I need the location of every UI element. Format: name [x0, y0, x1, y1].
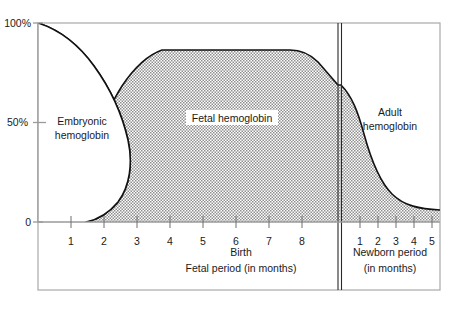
fetal-tick-label-5: 5 [200, 235, 206, 247]
fetal-period-caption: Fetal period (in months) [186, 262, 297, 274]
y-axis-label-50: 50% [7, 116, 28, 128]
embryonic-label-line2: hemoglobin [55, 129, 109, 141]
adult-label-line1: Adult [378, 106, 402, 118]
adult-label-line2: hemoglobin [363, 120, 417, 132]
fetal-tick-label-8: 8 [299, 235, 305, 247]
newborn-months-caption: (in months) [364, 262, 417, 274]
hemoglobin-switching-figure: 100% 50% 0 1 2 3 4 5 6 7 8 1 [0, 0, 457, 309]
embryonic-label-line1: Embryonic [57, 115, 107, 127]
fetal-tick-label-1: 1 [68, 235, 74, 247]
fetal-label: Fetal hemoglobin [192, 112, 273, 124]
fetal-tick-label-2: 2 [101, 235, 107, 247]
birth-caption: Birth [230, 246, 252, 258]
fetal-tick-label-7: 7 [266, 235, 272, 247]
fetal-tick-label-4: 4 [167, 235, 173, 247]
fetal-tick-label-3: 3 [134, 235, 140, 247]
y-axis-label-0: 0 [25, 216, 31, 228]
hemoglobin-chart: 100% 50% 0 1 2 3 4 5 6 7 8 1 [0, 0, 457, 309]
y-axis-label-100: 100% [4, 17, 31, 29]
newborn-period-caption: Newborn period [353, 246, 427, 258]
newborn-tick-label-5: 5 [429, 235, 435, 247]
